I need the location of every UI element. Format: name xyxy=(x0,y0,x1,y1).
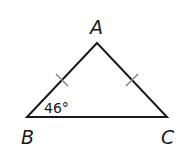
triangle-diagram: A B C 46° xyxy=(0,0,186,153)
vertex-label-b: B xyxy=(21,126,34,148)
vertex-label-a: A xyxy=(88,16,103,38)
angle-label-b: 46° xyxy=(44,100,69,116)
vertex-label-c: C xyxy=(161,126,175,148)
